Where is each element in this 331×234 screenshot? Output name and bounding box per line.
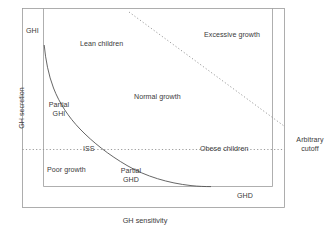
label-lean-children: Lean children	[80, 40, 123, 49]
label-normal-growth: Normal growth	[134, 93, 181, 102]
label-poor-growth: Poor growth	[47, 166, 86, 175]
label-partial-ghi: Partial GHI	[42, 101, 76, 118]
label-arbitrary-cutoff: Arbitrary cutoff	[291, 136, 329, 153]
x-axis-title: GH sensitivity	[0, 216, 290, 225]
excessive-growth-boundary-line	[129, 12, 284, 126]
label-ghd: GHD	[237, 192, 253, 201]
label-excessive-growth: Excessive growth	[204, 31, 260, 40]
y-axis-title: GH secretion	[18, 68, 26, 148]
gh-secretion-sensitivity-diagram: GHI Lean children Excessive growth Parti…	[0, 0, 331, 234]
label-iss: ISS	[83, 145, 95, 154]
label-ghi: GHI	[26, 27, 39, 36]
label-partial-ghd: Partial GHD	[114, 167, 148, 184]
label-obese-children: Obese children	[200, 145, 248, 154]
